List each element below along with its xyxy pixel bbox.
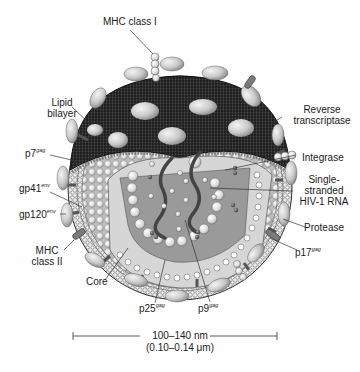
label-p9-gag: p9gag	[198, 303, 218, 314]
mhc-class-i-molecule	[151, 53, 160, 82]
label-mhc-class-ii: MHC class II	[27, 245, 67, 267]
label-protease: Protease	[304, 222, 344, 233]
label-core: Core	[86, 276, 108, 287]
scale-nm: 100–140 nm	[120, 330, 240, 342]
label-integrase: Integrase	[302, 152, 344, 163]
label-single-stranded-rna: Single- stranded HIV-1 RNA	[295, 174, 353, 207]
label-mhc-class-i: MHC class I	[103, 16, 157, 27]
scale-um: (0.10–0.14 μm)	[120, 342, 240, 354]
label-gp120-env: gp120env	[19, 209, 56, 220]
scale-bar-label: 100–140 nm (0.10–0.14 μm)	[120, 330, 240, 354]
label-reverse-transcriptase: Reverse transcriptase	[284, 104, 360, 126]
label-p25-gag: p25gag	[139, 303, 165, 314]
label-p7-gag: p7gag	[25, 148, 45, 159]
label-p17-gag: p17gag	[295, 247, 321, 258]
label-gp41-env: gp41env	[19, 183, 50, 194]
label-lipid-bilayer: Lipid bilayer	[42, 97, 82, 119]
hiv-virion-diagram: MHC class I Lipid bilayer p7gag gp41env …	[0, 0, 360, 372]
